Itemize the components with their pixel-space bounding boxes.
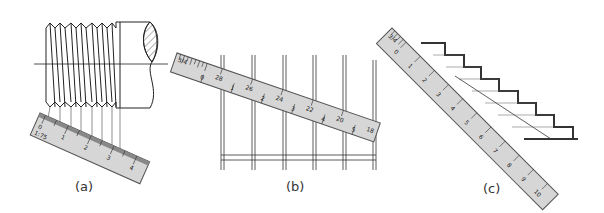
figure-canvas: 0 1 2 3 4 1:75 (a) (0, 0, 604, 213)
panel-a: 0 1 2 3 4 1:75 (a) (30, 22, 168, 194)
panel-c: 3/4 0 1 2 3 4 5 6 7 8 9 10 (c) (376, 28, 578, 210)
scale-ruler-a: 0 1 2 3 4 1:75 (30, 113, 149, 184)
panel-b: 3/4 0 1 2 3 4 5 28 26 24 22 20 18 (b) (170, 53, 380, 194)
caption-c: (c) (483, 181, 500, 196)
scale-ruler-c: 3/4 0 1 2 3 4 5 6 7 8 9 10 (376, 28, 558, 210)
scale-ruler-b: 3/4 0 1 2 3 4 5 28 26 24 22 20 18 (170, 53, 380, 142)
caption-b: (b) (286, 179, 304, 194)
caption-a: (a) (75, 179, 93, 194)
